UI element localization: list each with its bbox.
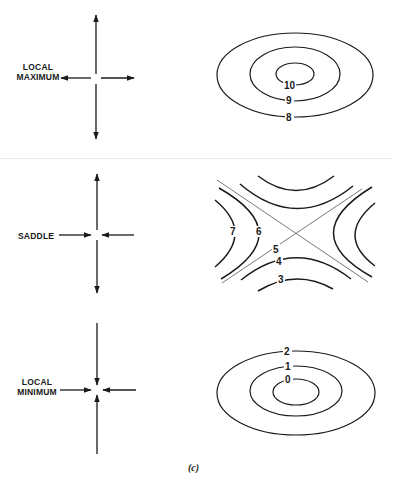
- contour-label-8: 8: [286, 112, 292, 123]
- figure-caption: (c): [188, 462, 199, 473]
- critical-points-figure: LOCAL MAXIMUM SADDLE LOCAL MINIMUM: [0, 0, 393, 493]
- contour-right-outer: [355, 203, 375, 266]
- contour-bottom-outer: [258, 279, 333, 291]
- local-minimum-arrows: [60, 323, 136, 454]
- local-maximum-contours: [217, 33, 373, 117]
- contour-label-3: 3: [278, 274, 284, 285]
- local-minimum-contour-labels: 2 1 0: [283, 346, 293, 385]
- saddle-contours: [215, 176, 375, 291]
- contour-label-0: 0: [285, 374, 291, 385]
- contour-top-outer: [258, 176, 334, 191]
- contour-9: [250, 47, 340, 101]
- contour-2: [217, 351, 375, 435]
- contour-8: [217, 33, 373, 117]
- contour-label-6: 6: [256, 226, 262, 237]
- local-maximum-arrows: [61, 15, 134, 139]
- contour-1: [250, 366, 342, 416]
- contour-bottom-inner: [241, 258, 351, 280]
- contour-right-inner: [334, 187, 373, 277]
- local-minimum-contours: [217, 351, 375, 435]
- contour-label-7: 7: [230, 226, 236, 237]
- contour-label-2: 2: [284, 346, 290, 357]
- contour-label-4: 4: [276, 256, 282, 267]
- contour-label-10: 10: [284, 80, 296, 91]
- saddle-arrows: [59, 174, 134, 293]
- saddle-contour-labels: 7 6 5 4 3: [229, 226, 285, 285]
- contour-label-9: 9: [286, 95, 292, 106]
- contour-top-inner: [240, 184, 353, 209]
- diagram-canvas: 10 9 8: [0, 0, 393, 493]
- separatrix-2: [222, 189, 362, 283]
- contour-label-5: 5: [273, 244, 279, 255]
- contour-6: [219, 188, 259, 279]
- contour-0: [273, 379, 319, 405]
- contour-label-1: 1: [285, 361, 291, 372]
